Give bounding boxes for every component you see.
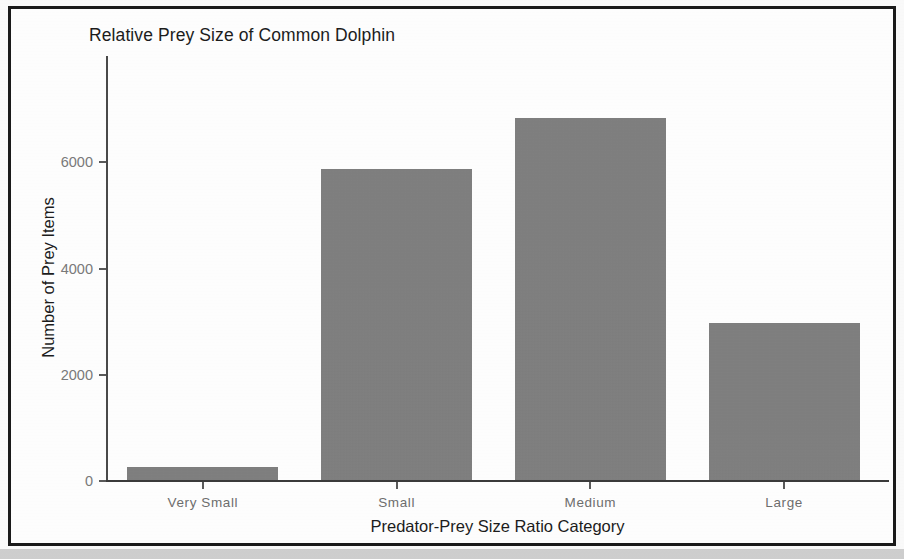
y-axis-line: [106, 56, 108, 481]
bar-chart-plot: Relative Prey Size of Common Dolphin 020…: [11, 9, 893, 543]
x-tick-label-medium: Medium: [495, 495, 685, 510]
bar-medium: [515, 118, 666, 481]
x-axis-title: Predator-Prey Size Ratio Category: [106, 517, 889, 536]
x-tick-mark: [589, 482, 591, 489]
bar-very-small: [127, 467, 278, 481]
plot-panel: [106, 56, 881, 481]
x-axis-line: [106, 480, 889, 482]
y-tick-mark: [99, 161, 106, 163]
chart-title: Relative Prey Size of Common Dolphin: [89, 25, 395, 46]
x-tick-mark: [202, 482, 204, 489]
y-tick-mark: [99, 374, 106, 376]
x-tick-mark: [396, 482, 398, 489]
bar-large: [709, 323, 860, 481]
screenshot-canvas: Relative Prey Size of Common Dolphin 020…: [0, 0, 904, 559]
y-tick-mark: [99, 268, 106, 270]
figure-frame: Relative Prey Size of Common Dolphin 020…: [8, 6, 896, 546]
y-tick-mark: [99, 480, 106, 482]
x-tick-mark: [783, 482, 785, 489]
bar-small: [321, 169, 472, 481]
y-axis-title: Number of Prey Items: [39, 148, 58, 408]
x-tick-label-large: Large: [689, 495, 879, 510]
x-tick-label-very-small: Very Small: [108, 495, 298, 510]
page-edge-band: [0, 549, 904, 559]
x-tick-label-small: Small: [302, 495, 492, 510]
y-tick-label: 0: [47, 473, 93, 489]
